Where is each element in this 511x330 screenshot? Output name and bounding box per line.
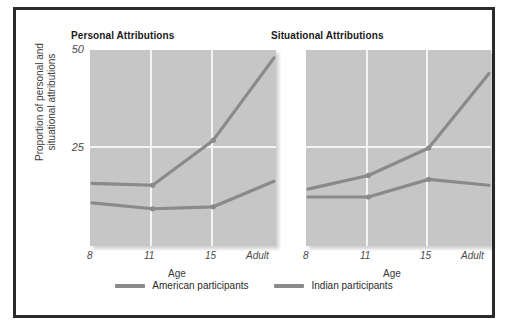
legend-swatch-indian <box>274 284 304 288</box>
legend-item-american: American participants <box>115 280 248 291</box>
x-tick-right-15: 15 <box>420 250 431 261</box>
legend: American participants Indian participant… <box>16 280 492 291</box>
figure-frame: Personal Attributions Proportion of pers… <box>13 7 495 318</box>
data-point <box>426 145 431 150</box>
y-tick-25: 25 <box>60 141 84 153</box>
x-tick-left-adult: Adult <box>246 250 269 261</box>
data-point <box>150 206 155 211</box>
x-tick-left-11: 11 <box>144 250 154 261</box>
panel-title-situational: Situational Attributions <box>271 30 384 41</box>
y-axis-title-line2: situational attributions <box>46 17 58 187</box>
plot-area-situational <box>306 50 491 246</box>
plot-area-personal <box>90 50 276 246</box>
y-tick-50: 50 <box>60 43 84 55</box>
x-tick-left-8: 8 <box>87 250 93 261</box>
y-axis-title-line1: Proportion of personal and <box>34 17 46 187</box>
data-point <box>366 194 371 199</box>
y-axis-title: Proportion of personal and situational a… <box>34 17 58 187</box>
series-line-american-personal <box>92 58 274 185</box>
series-line-american-situational <box>308 74 489 190</box>
legend-label-indian: Indian participants <box>311 280 392 291</box>
x-tick-right-8: 8 <box>303 250 309 261</box>
series-layer-personal <box>90 50 276 246</box>
x-axis-title-right: Age <box>383 268 401 279</box>
x-axis-title-left: Age <box>168 268 186 279</box>
data-point <box>211 204 216 209</box>
legend-item-indian: Indian participants <box>274 280 392 291</box>
data-point <box>366 173 371 178</box>
chart-area: Personal Attributions Proportion of pers… <box>16 10 492 315</box>
legend-label-american: American participants <box>152 280 248 291</box>
data-point <box>211 138 216 143</box>
data-point <box>426 177 431 182</box>
panel-title-personal: Personal Attributions <box>71 30 174 41</box>
x-tick-left-15: 15 <box>205 250 216 261</box>
series-layer-situational <box>306 50 491 246</box>
x-tick-right-11: 11 <box>360 250 370 261</box>
x-tick-right-adult: Adult <box>461 250 484 261</box>
data-point <box>150 183 155 188</box>
legend-swatch-american <box>115 284 145 288</box>
